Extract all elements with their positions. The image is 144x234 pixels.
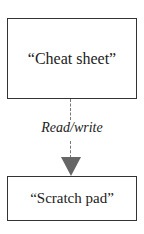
cheat-sheet-label: “Cheat sheet” [28, 50, 116, 68]
arrowhead-icon [61, 157, 81, 176]
edge-dashed-line-lower [70, 141, 71, 158]
scratch-pad-node: “Scratch pad” [7, 176, 137, 221]
scratch-pad-label: “Scratch pad” [30, 190, 114, 207]
cheat-sheet-node: “Cheat sheet” [7, 18, 137, 99]
edge-label: Read/write [0, 120, 144, 136]
edge-dashed-line-upper [70, 99, 71, 120]
